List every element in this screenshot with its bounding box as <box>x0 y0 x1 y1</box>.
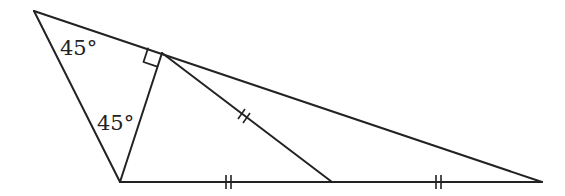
angle-label-bottom: 45° <box>97 111 134 135</box>
side-AC <box>34 11 542 182</box>
angle-label-top: 45° <box>60 36 97 60</box>
geometry-diagram: 45° 45° <box>0 0 565 196</box>
